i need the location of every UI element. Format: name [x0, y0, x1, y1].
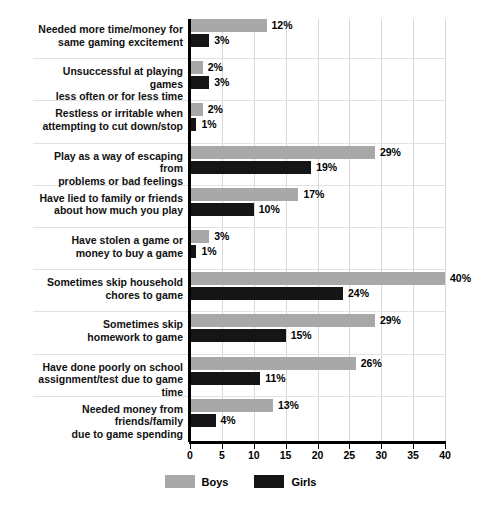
category-label-line: Needed money from friends/family	[28, 403, 183, 428]
row-separator	[33, 269, 445, 270]
bar-girls	[190, 329, 286, 342]
bar-value-label: 40%	[450, 272, 471, 285]
x-tick-label: 10	[239, 449, 269, 461]
bar-value-label: 29%	[380, 314, 401, 327]
category-label-line: problems or bad feelings	[28, 175, 183, 188]
gridline-25	[349, 19, 350, 441]
bar-girls	[190, 34, 209, 47]
legend-swatch-icon	[165, 475, 195, 488]
bar-value-label: 3%	[214, 34, 229, 47]
category-label-line: attempting to cut down/stop	[28, 120, 183, 133]
category-label: Needed more time/money forsame gaming ex…	[28, 23, 183, 48]
category-label-line: Have done poorly on school	[28, 361, 183, 374]
row-separator	[33, 58, 445, 59]
bar-boys	[190, 61, 203, 74]
chart-legend: BoysGirls	[0, 475, 481, 488]
category-label: Unsuccessful at playing gamesless often …	[28, 65, 183, 103]
row-separator	[33, 143, 445, 144]
bar-value-label: 3%	[214, 230, 229, 243]
bar-value-label: 11%	[265, 372, 285, 385]
bar-value-label: 17%	[303, 188, 324, 201]
x-tick-label: 30	[366, 449, 396, 461]
category-label-line: Sometimes skip household	[28, 276, 183, 289]
bar-value-label: 29%	[380, 146, 401, 159]
category-label-line: about how much you play	[28, 204, 183, 217]
bar-value-label: 3%	[214, 76, 229, 89]
chart-title	[0, 0, 481, 10]
gridline-35	[413, 19, 414, 441]
x-tick-label: 35	[398, 449, 428, 461]
bar-boys	[190, 19, 267, 32]
category-label: Play as a way of escaping fromproblems o…	[28, 150, 183, 188]
category-label-line: Needed more time/money for	[28, 23, 183, 36]
bar-boys	[190, 357, 356, 370]
legend-item-girls[interactable]: Girls	[254, 475, 316, 488]
row-separator	[33, 311, 445, 312]
y-axis-line	[188, 19, 191, 442]
category-label-line: Play as a way of escaping from	[28, 150, 183, 175]
bar-value-label: 1%	[201, 245, 216, 258]
x-tick-label: 5	[207, 449, 237, 461]
category-label-line: assignment/test due to game time	[28, 373, 183, 398]
bar-value-label: 4%	[221, 414, 236, 427]
bar-value-label: 26%	[361, 357, 382, 370]
category-label: Sometimes skip householdchores to game	[28, 276, 183, 301]
category-label-line: Unsuccessful at playing games	[28, 65, 183, 90]
category-label: Have stolen a game ormoney to buy a game	[28, 234, 183, 259]
category-label: Have lied to family or friendsabout how …	[28, 192, 183, 217]
legend-swatch-icon	[254, 475, 284, 488]
bar-boys	[190, 188, 298, 201]
bar-value-label: 1%	[201, 118, 216, 131]
row-separator	[33, 354, 445, 355]
category-label: Sometimes skiphomework to game	[28, 318, 183, 343]
bar-girls	[190, 287, 343, 300]
bar-boys	[190, 230, 209, 243]
category-label-line: less often or for less time	[28, 90, 183, 103]
bar-boys	[190, 314, 375, 327]
category-label: Restless or irritable whenattempting to …	[28, 107, 183, 132]
x-tick-label: 20	[303, 449, 333, 461]
gridline-30	[381, 19, 382, 441]
gridline-40	[445, 19, 446, 441]
category-label-line: money to buy a game	[28, 247, 183, 260]
bar-value-label: 13%	[278, 399, 299, 412]
row-separator	[33, 227, 445, 228]
bar-boys	[190, 399, 273, 412]
category-label-line: due to game spending	[28, 428, 183, 441]
bar-chart: Needed more time/money forsame gaming ex…	[0, 0, 481, 512]
category-label-line: Restless or irritable when	[28, 107, 183, 120]
category-label-line: homework to game	[28, 331, 183, 344]
category-label: Needed money from friends/familydue to g…	[28, 403, 183, 441]
x-tick-label: 0	[175, 449, 205, 461]
bar-girls	[190, 161, 311, 174]
bar-girls	[190, 372, 260, 385]
bar-boys	[190, 103, 203, 116]
bar-value-label: 12%	[272, 19, 293, 32]
category-label-line: Sometimes skip	[28, 318, 183, 331]
legend-item-boys[interactable]: Boys	[165, 475, 229, 488]
category-label-line: same gaming excitement	[28, 36, 183, 49]
bar-value-label: 2%	[208, 103, 223, 116]
category-label-line: Have lied to family or friends	[28, 192, 183, 205]
category-label: Have done poorly on schoolassignment/tes…	[28, 361, 183, 399]
bar-value-label: 15%	[291, 329, 312, 342]
bar-value-label: 2%	[208, 61, 223, 74]
bar-value-label: 19%	[316, 161, 337, 174]
bar-girls	[190, 76, 209, 89]
legend-label: Girls	[291, 476, 316, 488]
bar-value-label: 24%	[348, 287, 369, 300]
gridline-20	[318, 19, 319, 441]
bar-girls	[190, 414, 216, 427]
bar-girls	[190, 203, 254, 216]
x-tick-label: 15	[271, 449, 301, 461]
category-label-line: chores to game	[28, 289, 183, 302]
category-label-line: Have stolen a game or	[28, 234, 183, 247]
legend-label: Boys	[202, 476, 229, 488]
bar-boys	[190, 146, 375, 159]
x-tick-label: 40	[430, 449, 460, 461]
bar-value-label: 10%	[259, 203, 280, 216]
bar-boys	[190, 272, 445, 285]
x-tick-label: 25	[334, 449, 364, 461]
